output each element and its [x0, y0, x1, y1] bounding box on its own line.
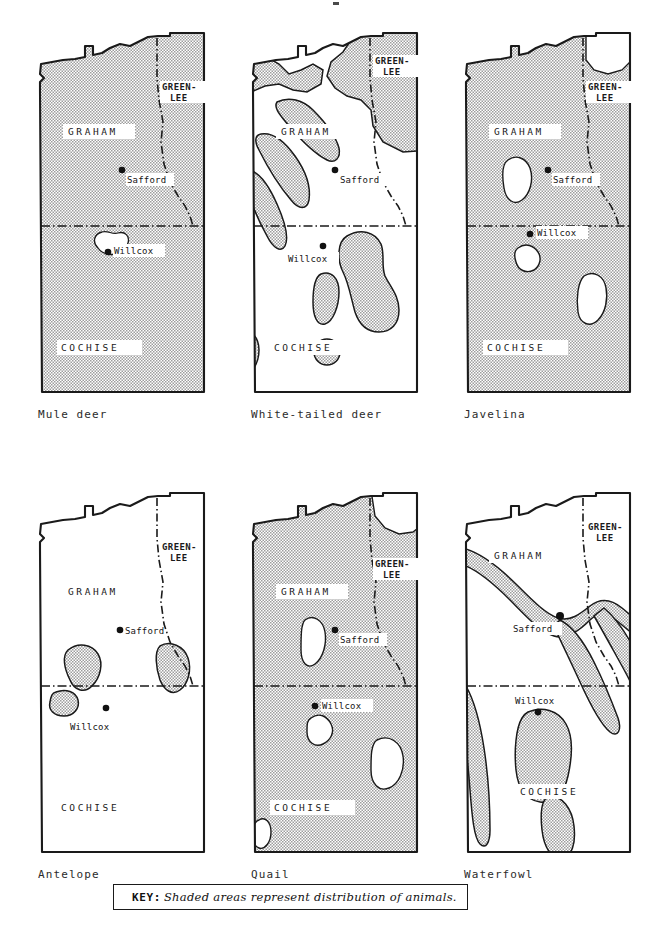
- greenlee-label-line2: LEE: [596, 533, 613, 543]
- county-label-graham: GRAHAM: [494, 126, 544, 137]
- city-dot-willcox: [103, 705, 110, 712]
- caption-javelina: Javelina: [464, 408, 526, 421]
- map-quail-svg: GRAHAM COCHISE GREEN- LEE Safford Willco…: [243, 490, 433, 862]
- greenlee-label-line1: GREEN-: [375, 56, 410, 66]
- map-mule-deer-svg: GRAHAM COCHISE GREEN- LEE Safford Willco: [30, 30, 220, 402]
- city-dot-safford: [545, 167, 552, 174]
- map-javelina-svg: GRAHAM COCHISE GREEN- LEE Safford Willco…: [456, 30, 646, 402]
- city-label-safford: Safford: [513, 624, 552, 634]
- map-waterfowl-svg: GRAHAM COCHISE GREEN- LEE Safford Willco…: [456, 490, 646, 862]
- map-mule-deer[interactable]: GRAHAM COCHISE GREEN- LEE Safford Willco: [30, 30, 242, 430]
- greenlee-label-line1: GREEN-: [162, 542, 197, 552]
- county-label-cochise: COCHISE: [487, 342, 545, 353]
- city-dot-willcox: [320, 243, 327, 250]
- county-label-graham: GRAHAM: [281, 126, 331, 137]
- unshaded-pocket-willcox: [515, 245, 540, 272]
- city-label-safford: Safford: [127, 175, 166, 185]
- shaded-patch-willcox: [50, 690, 79, 716]
- greenlee-label-line1: GREEN-: [375, 559, 410, 569]
- key-label: KEY:: [132, 891, 161, 904]
- map-waterfowl[interactable]: GRAHAM COCHISE GREEN- LEE Safford Willco…: [456, 490, 668, 890]
- county-label-cochise: COCHISE: [61, 342, 119, 353]
- map-antelope-svg: GRAHAM COCHISE GREEN- LEE Safford Willco…: [30, 490, 220, 862]
- greenlee-label-line1: GREEN-: [588, 82, 623, 92]
- city-label-willcox: Willcox: [537, 228, 577, 238]
- map-white-tailed-deer-svg: GRAHAM COCHISE GREEN- LEE Safford Willco…: [243, 30, 433, 402]
- county-label-cochise: COCHISE: [520, 786, 578, 797]
- county-label-graham: GRAHAM: [494, 550, 544, 561]
- city-label-safford: Safford: [340, 175, 379, 185]
- map-grid: GRAHAM COCHISE GREEN- LEE Safford Willco: [0, 0, 670, 880]
- city-label-willcox: Willcox: [288, 254, 328, 264]
- city-dot-safford: [332, 167, 339, 174]
- caption-mule-deer: Mule deer: [38, 408, 108, 421]
- greenlee-label-line1: GREEN-: [162, 82, 197, 92]
- county-label-graham: GRAHAM: [281, 586, 331, 597]
- county-label-cochise: COCHISE: [274, 342, 332, 353]
- key-text: Shaded areas represent distribution of a…: [164, 890, 457, 904]
- city-label-willcox: Willcox: [322, 701, 362, 711]
- city-dot-safford: [332, 627, 339, 634]
- figure-page: GRAHAM COCHISE GREEN- LEE Safford Willco: [0, 0, 670, 938]
- city-dot-willcox: [105, 249, 112, 256]
- county-label-cochise: COCHISE: [61, 802, 119, 813]
- city-label-willcox: Willcox: [515, 696, 555, 706]
- unshaded-pocket-willcox: [307, 715, 333, 745]
- city-dot-willcox: [527, 231, 534, 238]
- shaded-region-sw2: [241, 276, 251, 302]
- map-white-tailed-deer[interactable]: GRAHAM COCHISE GREEN- LEE Safford Willco…: [243, 30, 455, 430]
- city-dot-safford: [117, 627, 124, 634]
- map-javelina[interactable]: GRAHAM COCHISE GREEN- LEE Safford Willco…: [456, 30, 668, 430]
- caption-antelope: Antelope: [38, 868, 100, 881]
- city-dot-safford: [556, 612, 564, 620]
- city-label-willcox: Willcox: [114, 246, 154, 256]
- greenlee-label-line1: GREEN-: [588, 522, 623, 532]
- city-dot-willcox: [312, 703, 319, 710]
- greenlee-label-line2: LEE: [383, 67, 400, 77]
- caption-waterfowl: Waterfowl: [464, 868, 534, 881]
- city-dot-willcox: [535, 709, 542, 716]
- caption-white-tailed-deer: White-tailed deer: [251, 408, 382, 421]
- city-label-willcox: Willcox: [70, 722, 110, 732]
- city-dot-safford: [119, 167, 126, 174]
- map-quail[interactable]: GRAHAM COCHISE GREEN- LEE Safford Willco…: [243, 490, 455, 890]
- caption-quail: Quail: [251, 868, 290, 881]
- county-label-graham: GRAHAM: [68, 586, 118, 597]
- greenlee-label-line2: LEE: [596, 93, 613, 103]
- city-label-safford: Safford: [340, 635, 379, 645]
- key-box: KEY: Shaded areas represent distribution…: [113, 884, 468, 910]
- city-label-safford: Safford: [125, 626, 164, 636]
- greenlee-label-line2: LEE: [170, 93, 187, 103]
- greenlee-label-line2: LEE: [170, 553, 187, 563]
- map-antelope[interactable]: GRAHAM COCHISE GREEN- LEE Safford Willco…: [30, 490, 242, 890]
- greenlee-label-line2: LEE: [383, 570, 400, 580]
- city-label-safford: Safford: [553, 175, 592, 185]
- county-label-cochise: COCHISE: [274, 802, 332, 813]
- county-label-graham: GRAHAM: [68, 126, 118, 137]
